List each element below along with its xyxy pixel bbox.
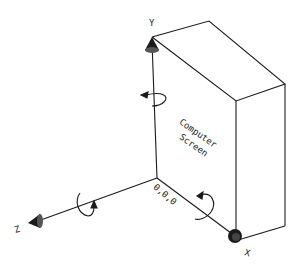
x-axis-label: X [244, 247, 252, 258]
origin-label: 0,0,0 [151, 182, 178, 207]
x-axis-cone-icon [228, 229, 242, 243]
z-axis-cone-icon [28, 214, 43, 228]
z-axis-label: Z [13, 224, 21, 235]
x-axis [157, 178, 235, 236]
rotation-about-y-icon [141, 92, 166, 106]
rotation-about-z-icon [77, 193, 97, 216]
y-axis-label: Y [149, 18, 155, 28]
z-axis [38, 178, 157, 221]
rotation-about-x-icon [195, 192, 214, 219]
computer-screen-box [152, 21, 285, 240]
axes-diagram: Y X Z 0,0,0 Computer Screen [0, 0, 304, 265]
y-axis [152, 42, 157, 178]
y-axis-cone-icon [145, 37, 159, 53]
